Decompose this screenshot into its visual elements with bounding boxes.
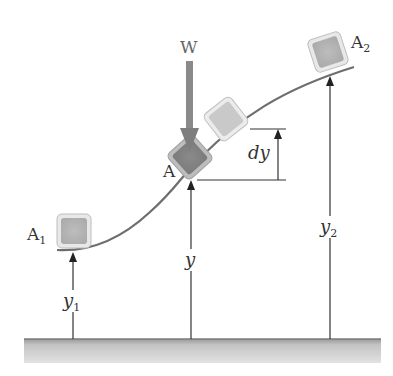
label-A1: A1 [27, 226, 46, 243]
label-A1-sub: 1 [39, 234, 46, 247]
ground [24, 339, 381, 363]
label-A: A [163, 163, 175, 180]
label-y1-sub: 1 [73, 301, 80, 314]
label-y1-main: y [63, 290, 73, 311]
block-A2 [307, 31, 350, 74]
label-y2-sub: 2 [330, 227, 337, 240]
height-line-y2 [326, 76, 334, 339]
label-W: W [180, 39, 197, 56]
label-y: y [185, 249, 195, 271]
label-A1-main: A [27, 224, 39, 244]
label-y2: y2 [320, 216, 337, 238]
block-A1 [57, 214, 91, 248]
label-y2-main: y [320, 216, 330, 237]
label-y1: y1 [63, 290, 80, 312]
label-dy: dy [247, 144, 271, 162]
label-A2: A2 [351, 34, 370, 51]
label-A2-sub: 2 [363, 42, 370, 55]
block-displaced [202, 95, 250, 143]
label-A2-main: A [351, 32, 363, 52]
